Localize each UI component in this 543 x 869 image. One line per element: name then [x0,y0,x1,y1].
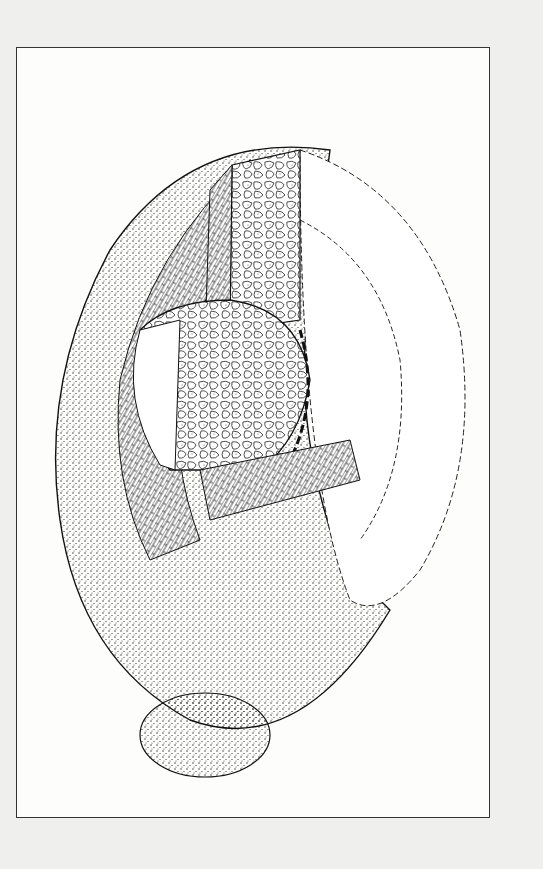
dome-cutaway-illustration [0,0,543,869]
